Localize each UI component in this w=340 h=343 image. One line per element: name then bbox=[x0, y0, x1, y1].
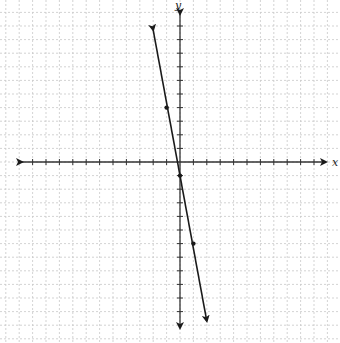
data-point bbox=[178, 173, 182, 177]
y-axis-label: y bbox=[174, 0, 182, 12]
grid-lines bbox=[0, 0, 340, 343]
x-axis-label: x bbox=[332, 156, 339, 169]
coordinate-plane: x y bbox=[0, 0, 340, 343]
data-point bbox=[191, 241, 195, 245]
data-point bbox=[164, 105, 168, 109]
axes bbox=[22, 14, 326, 328]
axis-ticks bbox=[33, 26, 314, 312]
